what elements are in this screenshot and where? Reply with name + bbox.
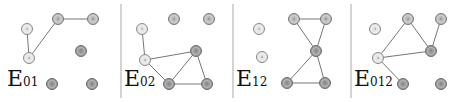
- graph-node: 6: [204, 14, 215, 25]
- graph-node: 2: [169, 14, 180, 25]
- svg-text:6: 6: [440, 17, 442, 21]
- graph-node: 3: [370, 24, 381, 35]
- svg-text:4: 4: [377, 56, 379, 60]
- graph-edge: [287, 51, 316, 83]
- svg-text:7: 7: [315, 49, 317, 53]
- graph-node: 4: [24, 53, 35, 64]
- svg-text:7: 7: [430, 49, 432, 53]
- svg-text:5: 5: [206, 82, 208, 86]
- panel-label-e012: E012: [354, 68, 393, 90]
- svg-text:4: 4: [28, 56, 30, 60]
- svg-text:2: 2: [173, 17, 175, 21]
- svg-text:1: 1: [402, 82, 404, 86]
- svg-text:3: 3: [141, 27, 143, 31]
- graph-node: 7: [426, 46, 437, 57]
- svg-text:6: 6: [325, 17, 327, 21]
- graph-node: 7: [311, 46, 322, 57]
- graph-diagram: 3264715326471534267153264715: [0, 0, 467, 102]
- svg-text:1: 1: [51, 82, 53, 86]
- graph-node: 4: [140, 55, 151, 66]
- svg-text:3: 3: [374, 27, 376, 31]
- svg-text:5: 5: [91, 82, 93, 86]
- graph-node: 5: [436, 79, 447, 90]
- graph-node: 6: [321, 14, 332, 25]
- graph-edge: [145, 51, 196, 60]
- graph-node: 5: [87, 79, 98, 90]
- panel-label-e12: E12: [236, 68, 267, 90]
- svg-text:5: 5: [324, 81, 326, 85]
- graph-node: 2: [53, 14, 64, 25]
- svg-text:6: 6: [208, 17, 210, 21]
- graph-node: 3: [22, 24, 33, 35]
- svg-text:2: 2: [57, 17, 59, 21]
- graph-edge: [29, 19, 58, 58]
- graph-node: 1: [47, 79, 58, 90]
- svg-text:3: 3: [26, 27, 28, 31]
- graph-node: 4: [257, 52, 268, 63]
- svg-text:6: 6: [92, 17, 94, 21]
- graph-node: 5: [320, 78, 331, 89]
- svg-text:2: 2: [407, 17, 409, 21]
- graph-node: 1: [282, 78, 293, 89]
- graph-node: 7: [191, 46, 202, 57]
- svg-text:7: 7: [80, 49, 82, 53]
- graph-node: 4: [373, 53, 384, 64]
- graph-node: 2: [403, 14, 414, 25]
- graph-node: 1: [398, 79, 409, 90]
- graph-node: 6: [436, 14, 447, 25]
- graph-node: 7: [76, 46, 87, 57]
- svg-text:7: 7: [195, 49, 197, 53]
- panel-label-e02: E02: [124, 68, 155, 90]
- svg-text:1: 1: [168, 82, 170, 86]
- graph-node: 6: [88, 14, 99, 25]
- graph-node: 5: [202, 79, 213, 90]
- svg-text:1: 1: [286, 81, 288, 85]
- graph-edge: [378, 51, 431, 58]
- svg-text:4: 4: [144, 58, 146, 62]
- graph-edge: [378, 19, 408, 58]
- panel-label-e01: E01: [7, 68, 38, 90]
- svg-text:3: 3: [258, 27, 260, 31]
- graph-node: 1: [164, 79, 175, 90]
- graph-edge: [169, 51, 196, 84]
- svg-text:2: 2: [293, 17, 295, 21]
- svg-text:5: 5: [440, 82, 442, 86]
- graph-node: 3: [137, 24, 148, 35]
- graph-node: 2: [289, 14, 300, 25]
- svg-text:4: 4: [261, 55, 263, 59]
- graph-node: 3: [254, 24, 265, 35]
